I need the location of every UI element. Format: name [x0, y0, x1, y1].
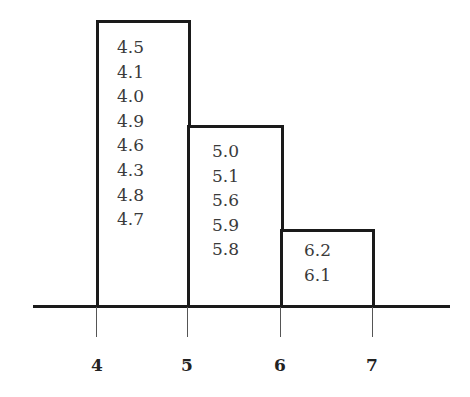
value: 5.9: [212, 213, 239, 238]
value: 4.7: [117, 207, 144, 232]
tick-6: [280, 307, 281, 337]
bar-5-6-values: 5.0 5.1 5.6 5.9 5.8: [212, 139, 239, 262]
value: 4.9: [117, 109, 144, 134]
tick-label-7: 7: [357, 355, 387, 375]
tick-label-5: 5: [172, 355, 202, 375]
value: 4.1: [117, 60, 144, 85]
value: 6.2: [304, 238, 331, 263]
value: 4.3: [117, 158, 144, 183]
value: 4.5: [117, 35, 144, 60]
bar-4-5-values: 4.5 4.1 4.0 4.9 4.6 4.3 4.8 4.7: [117, 35, 144, 232]
value: 4.6: [117, 133, 144, 158]
tick-label-6: 6: [265, 355, 295, 375]
value: 6.1: [304, 263, 331, 288]
value: 5.6: [212, 188, 239, 213]
tick-5: [187, 307, 188, 337]
bar-6-7-values: 6.2 6.1: [304, 238, 331, 287]
tick-4: [96, 307, 97, 337]
value: 5.0: [212, 139, 239, 164]
value: 4.8: [117, 183, 144, 208]
value: 5.1: [212, 164, 239, 189]
value: 5.8: [212, 237, 239, 262]
tick-label-4: 4: [82, 355, 112, 375]
tick-7: [372, 307, 373, 337]
value: 4.0: [117, 84, 144, 109]
